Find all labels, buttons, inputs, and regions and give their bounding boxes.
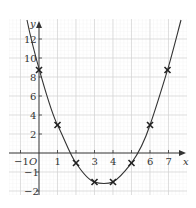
x-tick-label: 1 <box>55 156 61 167</box>
y-tick-label: 8 <box>30 72 36 83</box>
x-tick-label: 3 <box>92 156 98 167</box>
y-tick-label: −2 <box>24 186 39 197</box>
x-tick-label: 6 <box>147 156 153 167</box>
x-tick-label: 7 <box>166 156 172 167</box>
y-axis-label: y <box>29 18 36 29</box>
y-tick-label: −1 <box>24 167 39 178</box>
x-tick-label: 4 <box>110 156 116 167</box>
y-tick-label: 2 <box>30 129 36 140</box>
x-axis-label: x <box>183 156 189 167</box>
y-tick-label: 6 <box>30 91 36 102</box>
parabola-chart: y x O −1 1 3 4 6 7 2 4 6 8 10 12 −1 −2 <box>0 0 196 208</box>
origin-label: O <box>29 156 37 167</box>
x-tick-label: −1 <box>14 156 29 167</box>
y-tick-label: 4 <box>30 110 36 121</box>
